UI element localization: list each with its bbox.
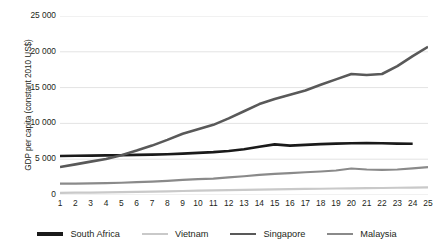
x-tick-label: 13 [239,198,248,208]
legend-item-vietnam[interactable]: Vietnam [142,229,209,239]
y-tick-label: 20 000 [4,46,56,56]
x-tick-label: 4 [104,198,109,208]
plot-area [60,16,428,195]
x-tick-label: 9 [180,198,185,208]
series-line-vietnam [60,187,428,193]
x-tick-label: 7 [150,198,155,208]
legend-item-singapore[interactable]: Singapore [230,229,305,239]
x-tick-label: 22 [377,198,386,208]
legend-label: Malaysia [360,229,396,239]
x-tick-label: 15 [270,198,279,208]
x-tick-label: 10 [193,198,202,208]
x-tick-label: 24 [408,198,417,208]
x-tick-label: 12 [224,198,233,208]
x-tick-label: 3 [88,198,93,208]
series-line-malaysia [60,167,428,184]
y-tick-label: 5 000 [4,153,56,163]
x-tick-label: 19 [331,198,340,208]
x-tick-label: 8 [165,198,170,208]
chart-legend: South AfricaVietnamSingaporeMalaysia [0,224,434,244]
x-tick-label: 1 [58,198,63,208]
legend-label: South Africa [70,229,120,239]
y-tick-label: 25 000 [4,10,56,20]
legend-swatch-icon [230,233,256,236]
legend-swatch-icon [327,233,353,235]
y-tick-label: 15 000 [4,82,56,92]
y-tick-label: 0 [4,189,56,199]
y-tick-label: 10 000 [4,117,56,127]
y-axis-tick-labels: 05 00010 00015 00020 00025 000 [0,0,56,248]
legend-swatch-icon [142,233,168,235]
legend-swatch-icon [37,232,63,235]
legend-label: Vietnam [175,229,209,239]
x-tick-label: 2 [73,198,78,208]
x-tick-label: 17 [301,198,310,208]
x-tick-label: 25 [423,198,432,208]
plot-svg [60,16,428,195]
x-tick-label: 23 [393,198,402,208]
x-tick-label: 14 [255,198,264,208]
x-axis-tick-labels: 1234567891011121314151617181920212223242… [60,198,428,212]
x-tick-label: 20 [347,198,356,208]
series-line-south-africa [60,143,413,156]
legend-item-malaysia[interactable]: Malaysia [327,229,396,239]
x-tick-label: 21 [362,198,371,208]
x-tick-label: 16 [285,198,294,208]
legend-item-south-africa[interactable]: South Africa [37,229,120,239]
x-tick-label: 18 [316,198,325,208]
x-tick-label: 11 [209,198,218,208]
chart-figure: GDP per capita (constant 2010 US$) 05 00… [0,0,434,248]
x-tick-label: 5 [119,198,124,208]
x-tick-label: 6 [134,198,139,208]
legend-label: Singapore [263,229,305,239]
